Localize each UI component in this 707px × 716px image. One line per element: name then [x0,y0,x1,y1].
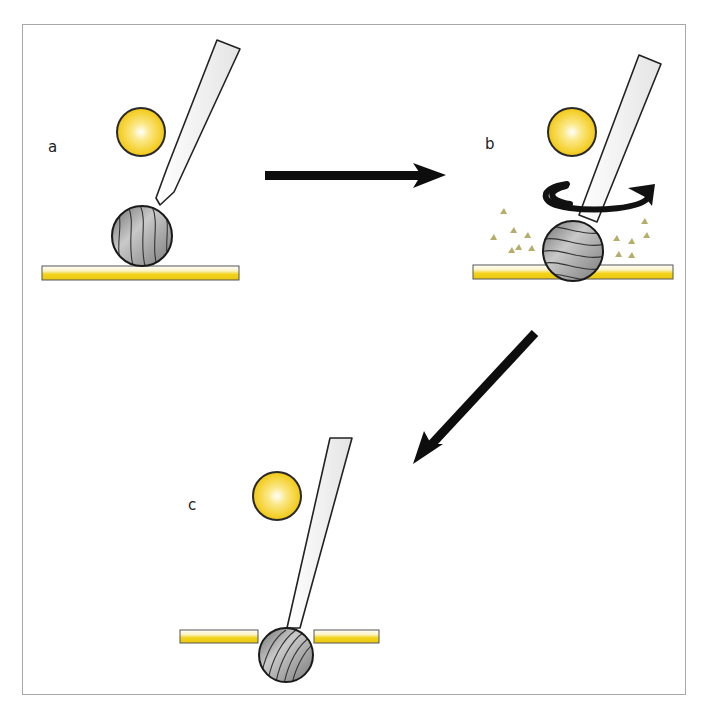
probe-shaft [287,438,352,628]
panel-label-c: c [188,496,196,514]
light-source-icon [548,108,596,156]
light-source-icon [253,472,301,520]
arrow-a-to-b [265,163,446,188]
panel-a [42,40,240,280]
coating-layer [42,266,239,280]
arrow-b-to-c [413,333,535,464]
ball-tip [112,205,172,270]
probe-shaft [156,40,240,205]
panel-label-a: a [48,138,57,156]
diagram-canvas [0,0,707,716]
panel-label-b: b [485,135,495,153]
coating-layer-left [180,630,258,643]
ball-tip [259,628,316,684]
coating-layer-right [314,630,379,643]
light-source-icon [117,108,165,156]
panel-b [473,55,673,281]
panel-c [180,438,379,684]
